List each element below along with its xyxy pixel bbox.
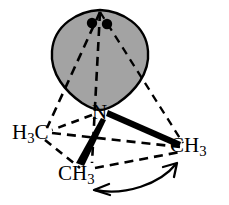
amine-inversion-figure: N H3C CH3 CH3 [0, 0, 229, 205]
molecule-svg [0, 0, 229, 205]
inversion-arrowhead-left [94, 184, 110, 195]
lone-pair-lobe-group [52, 10, 148, 110]
atom-label-methyl-bottom: CH3 [58, 163, 95, 187]
atom-label-methyl-right: CH3 [170, 135, 207, 159]
atom-label-methyl-left: H3C [12, 122, 49, 146]
methyl-bottom-ch: CH [58, 161, 87, 185]
lone-pair-lobe [52, 10, 148, 110]
atom-label-nitrogen: N [92, 102, 107, 123]
methyl-bottom-subscript: 3 [87, 171, 94, 187]
nitrogen-text: N [92, 100, 107, 124]
methyl-left-c: C [35, 120, 49, 144]
bond-n-methyl-left [52, 115, 92, 130]
bond-n-methyl-bottom [76, 118, 106, 166]
lone-pair-dot-2 [102, 19, 112, 29]
methyl-right-ch: CH [170, 133, 199, 157]
lone-pair-dot-1 [87, 18, 97, 28]
methyl-right-subscript: 3 [199, 143, 206, 159]
methyl-left-h: H [12, 120, 27, 144]
inversion-arrow-group [94, 163, 177, 195]
inversion-arrow-curve [95, 164, 176, 192]
methyl-left-subscript: 3 [27, 130, 34, 146]
